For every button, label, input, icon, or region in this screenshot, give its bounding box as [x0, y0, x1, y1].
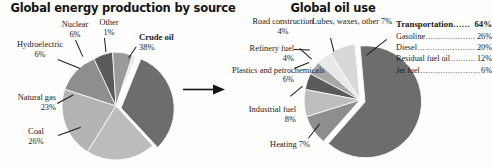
legend-gasoline-value: 26%	[477, 31, 492, 42]
legend-residual-fuel-oil-dots: ................	[451, 53, 477, 64]
pie-label-plastics-petrochemicals-name: Plastics and petrochemicals	[232, 66, 325, 75]
pie-label-road-construction-pct: 4%	[252, 27, 314, 37]
legend-jet-fuel-dots: ...............................	[420, 65, 480, 76]
pie-label-natural-gas-name: Natural gas	[18, 93, 56, 102]
pie-label-crude-oil-pct: 38%	[139, 43, 199, 53]
pie-label-nuclear-name: Nuclear	[62, 20, 89, 29]
pie-label-refinery-fuel-name: Refinery fuel	[250, 44, 294, 53]
pie-label-road-construction: Road construction 4%	[252, 17, 314, 36]
pie-label-refinery-fuel: Refinery fuel 4%	[238, 44, 294, 63]
chart-panel-energy-production: Global energy production by source	[0, 0, 246, 168]
legend-gasoline-dots: ..............................	[426, 31, 477, 42]
legend-diesel-name: Diesel	[396, 42, 417, 53]
pie-label-road-construction-name: Road construction	[252, 17, 313, 26]
pie-label-industrial-fuel-name: Industrial fuel	[249, 105, 296, 114]
pie-label-plastics-petrochemicals-pct: 6%	[232, 75, 294, 84]
pie-label-lubes-waxes-other: Lubes, waxes, other 7%	[312, 17, 376, 27]
legend-row-jet-fuel: Jet fuel ...............................…	[396, 65, 492, 76]
pie-label-natural-gas: Natural gas 23%	[0, 93, 56, 112]
arrow-right-icon	[183, 84, 225, 95]
legend-row-transportation: Transportation ...... 64%	[396, 18, 492, 31]
legend-transportation-value: 64%	[474, 18, 492, 30]
pie-label-coal: Coal 26%	[14, 127, 58, 146]
legend-transportation-breakdown: Transportation ...... 64% Gasoline .....…	[396, 18, 492, 76]
legend-jet-fuel-name: Jet fuel	[396, 65, 420, 76]
leader-line-refinery-fuel	[294, 49, 310, 51]
pie-label-industrial-fuel: Industrial fuel 8%	[234, 105, 296, 124]
pie-label-industrial-fuel-pct: 8%	[234, 115, 296, 125]
pie-label-heating-name: Heating 7%	[270, 140, 310, 149]
legend-gasoline-name: Gasoline	[396, 31, 425, 42]
pie-label-lubes-waxes-other-name: Lubes, waxes, other 7%	[312, 17, 392, 26]
pie-svg-energy	[57, 47, 175, 165]
legend-row-gasoline: Gasoline .............................. …	[396, 31, 492, 42]
pie-label-other-pct: 1%	[92, 28, 126, 38]
pie-label-hydroelectric: Hydroelectric 6%	[2, 40, 78, 59]
legend-jet-fuel-value: 6%	[481, 65, 492, 76]
page-title-oil-use: Global oil use	[210, 1, 456, 15]
pie-chart-energy-production	[57, 47, 175, 165]
legend-transportation-dots: ......	[454, 19, 474, 31]
legend-residual-fuel-oil-value: 12%	[477, 53, 492, 64]
legend-row-residual-fuel-oil: Residual fuel oil ................ 12%	[396, 53, 492, 64]
pie-label-crude-oil-name: Crude oil	[139, 32, 174, 42]
pie-label-coal-pct: 26%	[14, 137, 58, 147]
figure-root: Global energy production by source	[0, 0, 492, 168]
pie-label-crude-oil: Crude oil 38%	[139, 33, 199, 52]
legend-diesel-value: 20%	[477, 42, 492, 53]
pie-label-natural-gas-pct: 23%	[0, 103, 56, 113]
pie-label-plastics-petrochemicals: Plastics and petrochemicals 6%	[232, 66, 294, 84]
pie-label-hydroelectric-pct: 6%	[2, 50, 78, 60]
pie-label-other-name: Other	[99, 18, 118, 27]
legend-row-diesel: Diesel .................................…	[396, 42, 492, 53]
pie-label-coal-name: Coal	[28, 127, 44, 136]
legend-diesel-dots: ..................................	[417, 42, 476, 53]
pie-label-hydroelectric-name: Hydroelectric	[17, 40, 63, 49]
pie-label-other: Other 1%	[92, 18, 126, 37]
legend-residual-fuel-oil-name: Residual fuel oil	[396, 53, 450, 64]
pie-label-refinery-fuel-pct: 4%	[238, 54, 294, 64]
pie-label-heating: Heating 7%	[256, 140, 324, 150]
leader-line-other	[104, 38, 106, 52]
legend-transportation-name: Transportation	[396, 18, 453, 30]
chart-panel-oil-use: Global oil use	[246, 0, 492, 168]
